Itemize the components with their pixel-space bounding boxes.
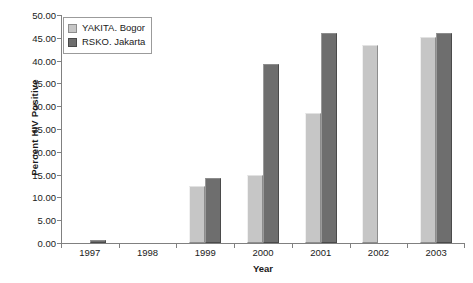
bar (362, 45, 378, 243)
x-axis-tick-label: 1999 (195, 247, 216, 258)
y-axis-tick-labels: 0.005.0010.0015.0020.0025.0030.0035.0040… (18, 0, 56, 283)
bar (263, 64, 279, 243)
x-axis-tick-label: 1997 (79, 247, 100, 258)
x-axis-tick-label: 2000 (252, 247, 273, 258)
y-axis-tick-mark (57, 197, 61, 198)
x-axis-tick-label: 2002 (368, 247, 389, 258)
y-axis-tick-mark (57, 15, 61, 16)
y-axis-tick-label: 0.00 (18, 238, 56, 249)
legend-item-label: YAKITA. Bogor (82, 23, 145, 33)
y-axis-tick-mark (57, 220, 61, 221)
y-axis-tick-label: 40.00 (18, 55, 56, 66)
chart-legend: YAKITA. BogorRSKO. Jakarta (63, 17, 152, 54)
x-axis-line (61, 243, 465, 244)
y-axis-tick-label: 45.00 (18, 32, 56, 43)
bar (247, 175, 263, 243)
bar-chart: Percent HIV Positive 0.005.0010.0015.002… (0, 0, 473, 283)
y-axis-tick-mark (57, 106, 61, 107)
legend-item: RSKO. Jakarta (68, 35, 145, 49)
bar (189, 186, 205, 243)
x-axis-tick-label: 2001 (310, 247, 331, 258)
bar (205, 178, 221, 243)
y-axis-tick-label: 10.00 (18, 192, 56, 203)
x-axis-tick-labels: 1997199819992000200120022003 (61, 247, 465, 263)
y-axis-tick-mark (57, 175, 61, 176)
bar (420, 37, 436, 243)
x-axis-title: Year (61, 263, 465, 274)
y-axis-tick-mark (57, 83, 61, 84)
y-axis-tick-label: 25.00 (18, 124, 56, 135)
x-axis-tick-label: 1998 (137, 247, 158, 258)
bar (436, 33, 452, 243)
y-axis-tick-mark (57, 152, 61, 153)
y-axis-tick-mark (57, 129, 61, 130)
bar (321, 33, 337, 243)
legend-swatch-icon (68, 24, 77, 33)
y-axis-tick-label: 20.00 (18, 146, 56, 157)
legend-item: YAKITA. Bogor (68, 21, 145, 35)
y-axis-tick-mark (57, 61, 61, 62)
y-axis-tick-label: 35.00 (18, 78, 56, 89)
x-axis-tick-label: 2003 (426, 247, 447, 258)
y-axis-tick-label: 5.00 (18, 215, 56, 226)
legend-swatch-icon (68, 38, 77, 47)
y-axis-tick-label: 50.00 (18, 10, 56, 21)
bar (90, 240, 106, 243)
legend-item-label: RSKO. Jakarta (82, 37, 145, 47)
y-axis-tick-mark (57, 38, 61, 39)
bar (305, 113, 321, 243)
y-axis-tick-label: 15.00 (18, 169, 56, 180)
y-axis-tick-label: 30.00 (18, 101, 56, 112)
